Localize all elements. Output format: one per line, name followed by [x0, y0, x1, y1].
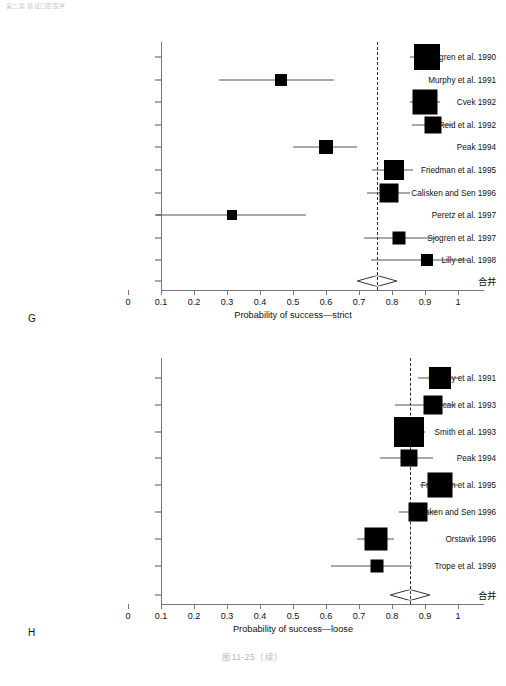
plot-area-g: 00.10.20.30.40.50.60.70.80.91Probability… [0, 0, 506, 340]
x-axis-tick-label: 0.7 [353, 297, 366, 307]
x-axis-tick [194, 604, 195, 609]
y-axis-tick-pooled [155, 595, 161, 596]
y-axis-tick [155, 102, 161, 103]
x-axis-tick-label: 0.4 [254, 297, 267, 307]
effect-estimate-box [414, 44, 440, 70]
forest-plot-panel-h: 00.10.20.30.40.50.60.70.80.91Probability… [0, 340, 506, 640]
x-axis-title: Probability of success—loose [233, 624, 353, 634]
study-label: Orstavik 1996 [445, 534, 496, 543]
x-axis-tick [392, 290, 393, 295]
x-axis-tick-label: 1 [455, 297, 460, 307]
y-axis-tick [155, 378, 161, 379]
effect-estimate-box [371, 559, 384, 572]
x-axis-tick-label: 0.9 [419, 297, 432, 307]
effect-estimate-box [379, 183, 398, 202]
x-axis-tick [260, 290, 261, 295]
x-axis-tick [458, 290, 459, 295]
effect-estimate-box [275, 74, 287, 86]
x-axis-tick [293, 290, 294, 295]
effect-estimate-box [227, 210, 237, 220]
effect-estimate-box [364, 527, 387, 550]
y-axis-tick-pooled [155, 281, 161, 282]
x-axis-tick-label: 0.1 [155, 611, 168, 621]
panel-letter-g: G [28, 313, 36, 324]
x-axis-tick-label: 0.7 [353, 611, 366, 621]
x-axis-tick-label: 0.3 [221, 297, 234, 307]
effect-estimate-box [392, 231, 405, 244]
x-axis-tick-label: 0.8 [386, 611, 399, 621]
y-axis-tick [155, 79, 161, 80]
x-axis-tick [227, 604, 228, 609]
confidence-interval [371, 260, 468, 261]
effect-estimate-box [400, 450, 417, 467]
x-axis-tick [326, 604, 327, 609]
effect-estimate-box [421, 254, 433, 266]
y-axis-tick [155, 147, 161, 148]
x-axis-tick-label: 0.6 [320, 297, 333, 307]
x-axis-title: Probability of success—strict [234, 310, 351, 320]
x-axis-tick [227, 290, 228, 295]
y-axis-tick [155, 431, 161, 432]
x-axis-tick [128, 604, 129, 609]
y-axis-tick [155, 124, 161, 125]
x-axis-tick-label: 0.6 [320, 611, 333, 621]
study-label: Peak 1994 [457, 454, 496, 463]
pooled-diamond [357, 276, 397, 287]
study-label: Peak 1994 [457, 143, 496, 152]
x-axis-tick-label: 0.3 [221, 611, 234, 621]
figure-caption: 图11-25（续） [0, 650, 506, 662]
study-label: Trope et al. 1999 [434, 561, 496, 570]
x-axis-tick [326, 290, 327, 295]
study-label: Murphy et al. 1991 [428, 75, 496, 84]
x-axis-tick-label: 0 [125, 611, 130, 621]
x-axis-tick-label: 0.2 [188, 611, 201, 621]
x-axis-tick-label: 0.5 [287, 297, 300, 307]
x-axis-tick [260, 604, 261, 609]
effect-estimate-box [429, 367, 451, 389]
x-axis-tick-label: 0.8 [386, 297, 399, 307]
y-axis-tick [155, 485, 161, 486]
pooled-diamond [390, 590, 430, 601]
x-axis-tick [161, 290, 162, 295]
x-axis-tick [293, 604, 294, 609]
x-axis-tick-label: 0.1 [155, 297, 168, 307]
y-axis-tick [155, 170, 161, 171]
x-axis-tick [392, 604, 393, 609]
x-axis-tick [128, 290, 129, 295]
reference-line [377, 42, 378, 290]
effect-estimate-box [409, 503, 428, 522]
study-label: Peretz et al. 1997 [432, 211, 496, 220]
effect-estimate-box [384, 160, 404, 180]
y-axis-tick [155, 57, 161, 58]
y-axis-tick [155, 260, 161, 261]
study-label: Sjogren et al. 1997 [427, 233, 496, 242]
x-axis-tick [359, 604, 360, 609]
forest-plot-panel-g: 00.10.20.30.40.50.60.70.80.91Probability… [0, 0, 506, 340]
x-axis-tick-label: 1 [455, 611, 460, 621]
x-axis-tick-label: 0.2 [188, 297, 201, 307]
study-label: Calisken and Sen 1996 [411, 188, 496, 197]
study-label: Smith et al. 1993 [435, 427, 496, 436]
effect-estimate-box [319, 140, 333, 154]
effect-estimate-box [424, 395, 443, 414]
effect-estimate-box [425, 116, 442, 133]
y-axis-tick [155, 404, 161, 405]
effect-estimate-box [413, 90, 438, 115]
x-axis-line [161, 290, 484, 291]
x-axis-tick-label: 0.5 [287, 611, 300, 621]
effect-estimate-box [394, 417, 424, 447]
reference-line [410, 358, 411, 604]
x-axis-tick [425, 604, 426, 609]
effect-estimate-box [427, 473, 452, 498]
pooled-label: 合并 [478, 274, 496, 288]
x-axis-tick [458, 604, 459, 609]
x-axis-tick [425, 290, 426, 295]
y-axis-tick [155, 565, 161, 566]
y-axis-tick [155, 237, 161, 238]
y-axis-line [161, 42, 162, 290]
x-axis-tick [161, 604, 162, 609]
y-axis-tick [155, 538, 161, 539]
x-axis-tick [359, 290, 360, 295]
y-axis-tick [155, 458, 161, 459]
panel-letter-h: H [28, 627, 35, 638]
